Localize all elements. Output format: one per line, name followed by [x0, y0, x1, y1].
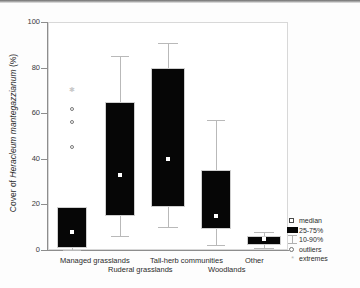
filled-box-icon	[286, 226, 299, 235]
extreme-marker: ✱	[69, 87, 75, 93]
x-tick-label: Woodlands	[208, 265, 245, 274]
box-plot-group: ✱	[52, 22, 92, 250]
y-tick-mark	[41, 250, 47, 251]
x-tick-label: Tall-herb communities	[150, 256, 223, 265]
whisker-cap-upper	[207, 120, 225, 121]
whisker-cap-lower	[207, 245, 225, 246]
y-tick-mark	[41, 204, 47, 205]
whisker-cap-lower	[158, 227, 178, 228]
y-tick-mark	[41, 159, 47, 160]
median-marker	[70, 230, 74, 234]
y-axis-spine	[47, 22, 48, 251]
y-tick-mark	[41, 22, 47, 23]
median-marker	[166, 157, 170, 161]
legend-item-quartiles: 25-75%	[286, 226, 360, 235]
y-tick-label: 0	[14, 246, 40, 254]
legend-item-median: median	[286, 216, 360, 225]
interquartile-box	[57, 207, 87, 248]
box-plot-group	[100, 22, 140, 250]
whisker-cap-upper	[158, 43, 178, 44]
scan-edge-artifact	[0, 0, 360, 3]
whisker-cap-lower	[254, 248, 274, 249]
legend-label: 10-90%	[299, 235, 323, 244]
legend-item-percentiles: 10-90%	[286, 235, 360, 244]
figure-canvas: Cover of Heracleum mantegazzianum (%) 02…	[0, 0, 360, 288]
x-tick-label: Ruderal grasslands	[108, 265, 173, 274]
whisker-icon	[286, 235, 299, 244]
median-marker	[118, 173, 122, 177]
outlier-marker	[70, 120, 74, 124]
y-tick-label: 60	[14, 109, 40, 117]
interquartile-box	[201, 170, 231, 229]
y-tick-label: 40	[14, 155, 40, 163]
median-marker	[262, 237, 266, 241]
interquartile-box	[151, 68, 185, 207]
box-plot-group	[148, 22, 188, 250]
box-plot-group	[196, 22, 236, 250]
legend-label: 25-75%	[299, 226, 323, 235]
y-tick-label: 20	[14, 200, 40, 208]
x-tick-label: Other	[245, 256, 264, 265]
whisker-cap-lower	[111, 236, 129, 237]
box-plot-group	[244, 22, 284, 250]
y-tick-mark	[41, 68, 47, 69]
open-circle-icon	[286, 245, 299, 254]
y-tick-label: 100	[14, 18, 40, 26]
outlier-marker	[70, 145, 74, 149]
legend-label: median	[299, 216, 322, 225]
legend: median 25-75% 10-90% outliers * extremes	[286, 216, 360, 264]
whisker-cap-upper	[111, 56, 129, 57]
y-tick-mark	[41, 113, 47, 114]
y-axis-tick-labels: 020406080100	[6, 0, 40, 288]
legend-label: extremes	[299, 254, 328, 263]
open-square-icon	[286, 216, 299, 225]
x-tick-label: Managed grasslands	[60, 256, 130, 265]
interquartile-box	[105, 102, 135, 216]
legend-item-extremes: * extremes	[286, 254, 360, 263]
asterisk-icon: *	[286, 254, 299, 263]
x-axis-spine	[47, 250, 289, 251]
outlier-marker	[70, 107, 74, 111]
whisker-cap-upper	[254, 232, 274, 233]
median-marker	[214, 214, 218, 218]
whisker-cap-lower	[63, 250, 81, 251]
legend-item-outliers: outliers	[286, 245, 360, 254]
y-tick-label: 80	[14, 64, 40, 72]
legend-label: outliers	[299, 245, 322, 254]
